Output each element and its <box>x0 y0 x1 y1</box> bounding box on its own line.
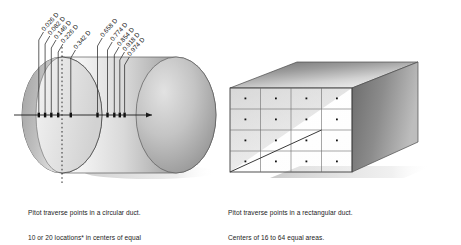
rectangular-duct-diagram <box>230 62 432 178</box>
caption-line: Pitot traverse points in a rectangular d… <box>228 209 438 217</box>
traverse-point <box>119 113 121 118</box>
traverse-point <box>336 119 338 121</box>
traverse-point <box>245 140 247 142</box>
traverse-point <box>96 113 98 118</box>
traverse-point <box>57 113 59 118</box>
traverse-point <box>275 161 277 163</box>
traverse-point <box>275 98 277 100</box>
traverse-point <box>106 113 108 118</box>
traverse-point <box>336 98 338 100</box>
traverse-point <box>123 113 125 118</box>
traverse-point <box>70 113 72 118</box>
traverse-point <box>306 98 308 100</box>
traverse-point <box>306 140 308 142</box>
traverse-point <box>245 161 247 163</box>
traverse-point <box>306 119 308 121</box>
rectangular-duct-caption: Pitot traverse points in a rectangular d… <box>228 192 438 245</box>
traverse-point <box>44 113 46 118</box>
caption-line: 10 or 20 locations* in centers of equal <box>28 234 228 242</box>
caption-line: Pitot traverse points in a circular duct… <box>28 209 228 217</box>
circular-right-labels: 0.658 D 0.774 D 0.854 D 0.918 D 0.974 D <box>98 16 146 57</box>
caption-line: Centers of 16 to 64 equal areas. <box>228 234 438 242</box>
traverse-point <box>336 161 338 163</box>
circular-duct-caption: Pitot traverse points in a circular duct… <box>28 192 228 245</box>
circular-duct-diagram: 0.026 D 0.082 D 0.146 D 0.226 D 0.342 D … <box>14 10 216 185</box>
traverse-point <box>275 119 277 121</box>
traverse-point <box>275 140 277 142</box>
traverse-point <box>245 98 247 100</box>
traverse-point <box>38 113 40 118</box>
traverse-point <box>113 113 115 118</box>
circular-left-labels: 0.026 D 0.082 D 0.146 D 0.226 D 0.342 D <box>40 10 92 50</box>
traverse-point <box>336 140 338 142</box>
traverse-point <box>306 161 308 163</box>
traverse-point <box>50 113 52 118</box>
traverse-point <box>245 119 247 121</box>
